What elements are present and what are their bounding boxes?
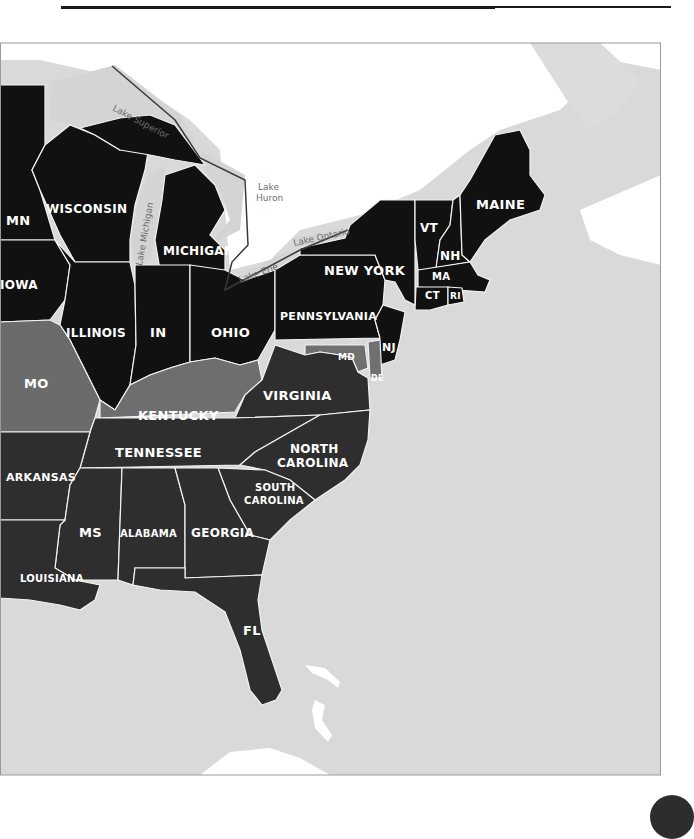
label-new-hampshire: NH <box>440 249 461 263</box>
label-mn: MN <box>6 213 30 228</box>
label-south-carolina-1: SOUTH <box>255 482 296 493</box>
label-indiana: IN <box>150 325 166 340</box>
label-mississippi: MS <box>79 525 102 540</box>
label-maryland: MD <box>338 352 355 362</box>
label-rhode-island: RI <box>450 291 461 301</box>
label-missouri: MO <box>24 376 49 391</box>
label-delaware: DE <box>371 374 384 383</box>
page-tab-marker <box>650 795 694 839</box>
label-lake-huron-2: Huron <box>256 193 283 203</box>
label-north-carolina-2: CAROLINA <box>277 456 349 470</box>
label-massachusetts: MA <box>432 271 450 282</box>
label-ohio: OHIO <box>211 325 250 340</box>
state-delaware <box>368 340 382 378</box>
label-virginia: VIRGINIA <box>263 388 332 403</box>
label-vermont: VT <box>420 221 439 235</box>
label-michigan: MICHIGAN <box>163 244 234 258</box>
label-new-york: NEW YORK <box>324 263 406 278</box>
label-georgia: GEORGIA <box>191 526 255 540</box>
label-illinois: ILLINOIS <box>66 326 126 340</box>
label-pennsylvania: PENNSYLVANIA <box>280 310 377 323</box>
label-florida: FL <box>243 623 261 638</box>
label-north-carolina-1: NORTH <box>290 442 339 456</box>
label-new-jersey: NJ <box>382 341 396 354</box>
label-iowa: IOWA <box>0 278 38 292</box>
label-tennessee: TENNESSEE <box>115 445 202 460</box>
label-lake-huron-1: Lake <box>258 182 279 192</box>
label-alabama: ALABAMA <box>120 528 177 539</box>
label-wisconsin: WISCONSIN <box>46 202 127 216</box>
label-maine: MAINE <box>476 197 525 212</box>
label-kentucky: KENTUCKY <box>138 408 219 423</box>
label-connecticut: CT <box>425 290 440 301</box>
label-arkansas: ARKANSAS <box>6 471 76 484</box>
label-south-carolina-2: CAROLINA <box>244 495 304 506</box>
label-louisiana: LOUISIANA <box>20 573 84 584</box>
state-ohio <box>190 265 275 365</box>
